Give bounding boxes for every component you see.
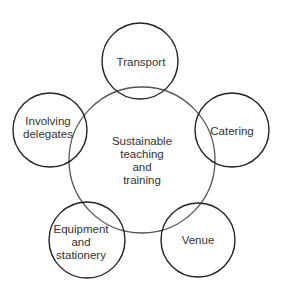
center-label: Sustainable teaching and training (112, 135, 172, 187)
venue-label: Venue (182, 234, 215, 247)
catering-label: Catering (210, 125, 253, 138)
involving-label: Involving delegates (23, 115, 73, 141)
equipment-label: Equipment and stationery (54, 223, 109, 262)
transport-label: Transport (117, 56, 166, 69)
